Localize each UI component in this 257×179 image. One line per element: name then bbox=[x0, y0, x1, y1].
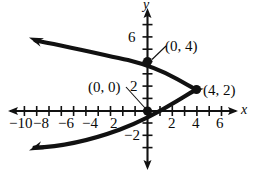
x-tick-label--10: −10 bbox=[9, 115, 32, 131]
y-axis-label: y bbox=[141, 0, 150, 12]
annotation-point-0-4: (0, 4) bbox=[165, 38, 198, 55]
x-axis-label: x bbox=[240, 102, 248, 117]
y-tick-label-2: 2 bbox=[130, 78, 138, 94]
point-4-2-marker bbox=[192, 85, 201, 94]
x-tick-label-4: 4 bbox=[192, 115, 200, 131]
leader-line-0-4 bbox=[152, 46, 166, 60]
point-0-4-marker bbox=[143, 57, 152, 66]
parabola-figure: −10 −8 −6 −4 2 2 4 6 6 2 −2 x y (0, 4) (… bbox=[0, 0, 257, 179]
y-tick-label-6: 6 bbox=[128, 29, 136, 45]
annotation-point-0-0: (0, 0) bbox=[88, 79, 121, 96]
x-tick-label--6: −6 bbox=[58, 115, 74, 131]
x-tick-label-6: 6 bbox=[216, 115, 224, 131]
x-tick-label--8: −8 bbox=[33, 115, 49, 131]
y-axis bbox=[143, 8, 153, 170]
x-tick-label--2: 2 bbox=[110, 115, 118, 131]
y-tick-label--2: −2 bbox=[124, 127, 140, 143]
graph-canvas: −10 −8 −6 −4 2 2 4 6 6 2 −2 x y (0, 4) (… bbox=[0, 0, 257, 179]
x-tick-label-2: 2 bbox=[168, 115, 176, 131]
annotation-point-4-2: (4, 2) bbox=[203, 82, 236, 99]
x-tick-label--4: −4 bbox=[82, 115, 98, 131]
